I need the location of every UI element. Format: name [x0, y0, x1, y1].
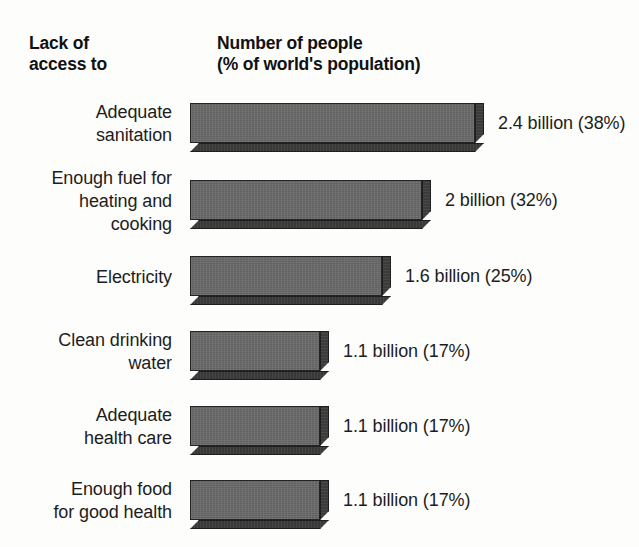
bar-3d	[190, 331, 329, 380]
bar-value-label: 2 billion (32%)	[445, 189, 558, 212]
bar-3d	[190, 256, 391, 305]
bar-bottom-face	[190, 446, 329, 455]
bar-3d	[190, 406, 329, 455]
bar-category-label: Enough fuel for heating and cooking	[51, 167, 172, 236]
bar-front-face	[190, 480, 320, 520]
bar-front-face	[190, 180, 422, 220]
bar-bottom-face	[190, 520, 329, 529]
bar-value-label: 2.4 billion (38%)	[498, 112, 625, 135]
bar-bottom-face	[190, 371, 329, 380]
bar-row: Clean drinking water1.1 billion (17%)	[0, 331, 639, 380]
bar-row: Enough food for good health1.1 billion (…	[0, 480, 639, 529]
bar-row: Adequate sanitation2.4 billion (38%)	[0, 103, 639, 152]
bar-category-label: Adequate sanitation	[96, 101, 172, 147]
bar-bottom-face	[190, 220, 431, 229]
bar-value-label: 1.1 billion (17%)	[343, 415, 470, 438]
bar-category-label: Adequate health care	[84, 404, 172, 450]
bar-chart: Lack of access to Number of people (% of…	[0, 0, 639, 547]
bar-3d	[190, 180, 431, 229]
bar-3d	[190, 480, 329, 529]
column-header-values: Number of people (% of world's populatio…	[217, 33, 420, 75]
bar-category-label: Clean drinking water	[58, 329, 172, 375]
bar-bottom-face	[190, 296, 391, 305]
bar-front-face	[190, 256, 382, 296]
bar-front-face	[190, 331, 320, 371]
bar-category-label: Enough food for good health	[53, 478, 172, 524]
column-header-categories: Lack of access to	[29, 33, 107, 75]
bar-value-label: 1.6 billion (25%)	[405, 265, 532, 288]
bar-bottom-face	[190, 143, 484, 152]
bar-front-face	[190, 406, 320, 446]
bar-row: Adequate health care1.1 billion (17%)	[0, 406, 639, 455]
bar-value-label: 1.1 billion (17%)	[343, 340, 470, 363]
bar-row: Electricity1.6 billion (25%)	[0, 256, 639, 305]
bar-row: Enough fuel for heating and cooking2 bil…	[0, 180, 639, 229]
bar-front-face	[190, 103, 475, 143]
bar-3d	[190, 103, 484, 152]
bar-category-label: Electricity	[96, 266, 172, 289]
bar-value-label: 1.1 billion (17%)	[343, 489, 470, 512]
